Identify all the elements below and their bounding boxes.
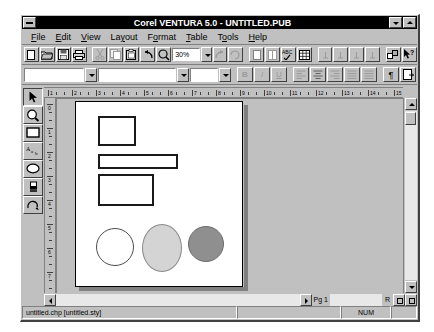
menu-item-layout[interactable]: Layout <box>105 32 142 42</box>
system-menu-icon[interactable] <box>23 17 36 28</box>
menu-item-format[interactable]: Format <box>142 32 181 42</box>
frame-icon <box>253 50 261 60</box>
scroll-down-button[interactable] <box>405 281 417 293</box>
ruler-tick <box>274 92 275 95</box>
font-name-dropdown-button[interactable] <box>177 68 189 82</box>
zoom-tool-button[interactable] <box>156 47 171 62</box>
menu-item-table-label: able <box>190 32 207 42</box>
font-size-dropdown-button[interactable] <box>219 68 231 82</box>
spellcheck-button[interactable]: ABC <box>281 47 296 62</box>
paragraph-style-combo[interactable] <box>24 68 84 82</box>
menu-item-tools[interactable]: Tools <box>212 32 243 42</box>
horizontal-scrollbar-track[interactable] <box>56 294 300 306</box>
paste-button[interactable] <box>124 47 139 62</box>
column-button[interactable] <box>265 47 280 62</box>
scroll-up-button[interactable] <box>405 98 417 110</box>
document-canvas[interactable] <box>56 98 403 293</box>
align-force-button[interactable] <box>361 67 377 82</box>
underline-button[interactable]: U <box>271 67 287 82</box>
ellipse-shape-2[interactable] <box>142 224 182 272</box>
italic-button[interactable]: I <box>254 67 270 82</box>
frame-button[interactable] <box>249 47 264 62</box>
vertical-scrollbar[interactable] <box>403 98 417 293</box>
node-edit-button[interactable] <box>386 47 401 62</box>
svg-text:ABC: ABC <box>282 50 293 55</box>
vertical-ruler[interactable]: 0 1 2 3 4 5 <box>44 98 56 293</box>
font-name-combo[interactable] <box>98 68 176 82</box>
ruler-tick <box>49 208 52 209</box>
ruler-label: 0 <box>48 106 51 111</box>
print-button[interactable] <box>72 47 87 62</box>
ruler-tick <box>80 92 81 95</box>
rectangle-shape-1[interactable] <box>98 116 136 146</box>
undo-button[interactable] <box>140 47 155 62</box>
horizontal-ruler[interactable]: 1 2 3 4 5 6 <box>44 87 403 98</box>
new-file-button[interactable] <box>24 47 39 62</box>
font-size-combo[interactable] <box>190 68 218 82</box>
horizontal-scrollbar[interactable]: Pg 1 R <box>44 293 417 306</box>
ruler-tick <box>72 90 73 96</box>
page-layout-icon <box>403 69 414 80</box>
rectangle-icon <box>26 127 40 139</box>
tab-right-button[interactable] <box>349 47 364 62</box>
toolbox: Aab <box>22 87 44 293</box>
outline-tool[interactable] <box>23 196 43 214</box>
ellipse-tool[interactable] <box>23 160 43 178</box>
bold-button[interactable]: B <box>237 67 253 82</box>
ellipse-shape-1[interactable] <box>96 228 134 266</box>
scroll-left-button[interactable] <box>44 294 56 306</box>
menu-item-view[interactable]: View <box>76 32 105 42</box>
text-tool[interactable]: Aab <box>23 142 43 160</box>
ruler-tick <box>184 92 185 95</box>
cut-button[interactable] <box>92 47 107 62</box>
save-file-button[interactable] <box>56 47 71 62</box>
fill-tool[interactable] <box>23 178 43 196</box>
page-layout-button[interactable] <box>400 67 416 82</box>
scroll-right-button[interactable] <box>300 294 312 306</box>
vertical-scrollbar-thumb[interactable] <box>405 112 416 125</box>
align-justify-button[interactable] <box>344 67 360 82</box>
align-center-button[interactable] <box>310 67 326 82</box>
zoom-tool[interactable] <box>23 106 43 124</box>
ellipse-shape-3[interactable] <box>188 226 224 262</box>
table-button[interactable] <box>297 47 312 62</box>
previous-page-button[interactable] <box>393 294 405 306</box>
zoom-level-input[interactable]: 30% <box>172 48 200 61</box>
context-help-button[interactable]: ? <box>402 47 417 62</box>
menu-item-edit[interactable]: Edit <box>51 32 77 42</box>
menu-item-help[interactable]: Help <box>244 32 273 42</box>
menu-item-file[interactable]: File <box>26 32 51 42</box>
next-page-button[interactable] <box>405 294 417 306</box>
align-right-button[interactable] <box>327 67 343 82</box>
tab-mark-icon <box>336 50 345 60</box>
open-file-button[interactable] <box>40 47 55 62</box>
redo-arrow-icon <box>214 50 226 60</box>
maximize-button[interactable] <box>403 17 416 28</box>
redo-button[interactable] <box>213 47 228 62</box>
rectangle-tool[interactable] <box>23 124 43 142</box>
toolbar-separator <box>88 47 92 62</box>
pick-tool[interactable] <box>23 88 43 106</box>
rectangle-shape-3[interactable] <box>98 174 154 206</box>
tab-decimal-button[interactable] <box>365 47 380 62</box>
tab-left-button[interactable] <box>318 47 333 62</box>
refresh-button[interactable] <box>228 47 243 62</box>
align-left-button[interactable] <box>293 67 309 82</box>
vertical-scrollbar-track[interactable] <box>405 111 417 280</box>
ruler-tick <box>49 216 52 217</box>
ruler-label: 1 <box>48 130 51 135</box>
horizontal-scrollbar-track-2[interactable] <box>330 294 382 306</box>
work-area: Aab 1 2 3 <box>22 87 417 319</box>
document-page[interactable] <box>75 101 243 287</box>
copy-button[interactable] <box>108 47 123 62</box>
tab-center-button[interactable] <box>333 47 348 62</box>
hruler-ticks: 1 2 3 4 5 6 <box>44 88 403 97</box>
paragraph-style-dropdown-button[interactable] <box>85 68 97 82</box>
minimize-button[interactable] <box>389 17 402 28</box>
svg-text:b: b <box>35 151 38 156</box>
menu-item-table[interactable]: Table <box>181 32 213 42</box>
rectangle-shape-2[interactable] <box>98 154 178 169</box>
zoom-level-spinner[interactable] <box>201 47 211 62</box>
ruler-tick <box>48 90 49 96</box>
show-paragraph-marks-button[interactable]: ¶ <box>383 67 399 82</box>
